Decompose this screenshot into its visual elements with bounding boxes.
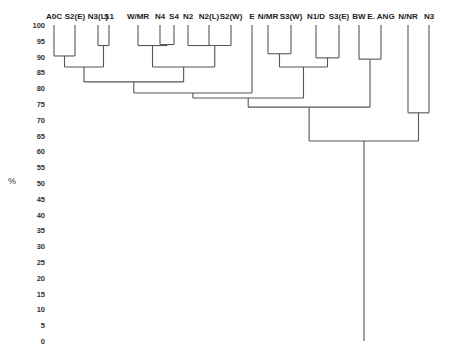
- y-tick-label: 10: [37, 305, 45, 314]
- y-tick-label: 40: [37, 211, 45, 220]
- leaf-labels: A0CS2(E)N3(L)S1W/MRN4S4N2N2(L)S2(W)EN/MR…: [46, 12, 435, 21]
- y-tick-label: 25: [37, 258, 45, 267]
- y-tick-label: 85: [37, 68, 45, 77]
- leaf-label: S2(W): [220, 12, 243, 21]
- y-tick-label: 30: [37, 242, 45, 251]
- y-tick-label: 100: [32, 21, 45, 30]
- y-tick-label: 95: [37, 37, 45, 46]
- y-tick-label: 15: [37, 290, 45, 299]
- leaf-label: N/NR: [398, 12, 418, 21]
- y-axis-label: %: [8, 176, 16, 186]
- y-tick-label: 50: [37, 179, 45, 188]
- y-tick-label: 55: [37, 163, 45, 172]
- dendrogram-branches: [54, 25, 429, 341]
- y-tick-label: 65: [37, 132, 45, 141]
- leaf-label: W/MR: [127, 12, 149, 21]
- leaf-label: N1/D: [307, 12, 325, 21]
- leaf-label: S2(E): [65, 12, 86, 21]
- leaf-label: N/MR: [258, 12, 279, 21]
- dendrogram-chart: 1009590858075706560555045403530252015105…: [0, 0, 452, 363]
- leaf-label: N2(L): [199, 12, 220, 21]
- leaf-label: BW: [352, 12, 366, 21]
- y-tick-label: 80: [37, 84, 45, 93]
- leaf-label: E: [249, 12, 255, 21]
- y-axis: 1009590858075706560555045403530252015105…: [32, 21, 45, 346]
- leaf-label: N4: [155, 12, 166, 21]
- leaf-label: S4: [169, 12, 179, 21]
- leaf-label: S3(E): [329, 12, 350, 21]
- y-tick-label: 70: [37, 116, 45, 125]
- y-tick-label: 20: [37, 274, 45, 283]
- y-tick-label: 0: [41, 337, 45, 346]
- leaf-label: N2: [183, 12, 194, 21]
- y-tick-label: 5: [41, 321, 45, 330]
- leaf-label: N3: [424, 12, 435, 21]
- y-tick-label: 60: [37, 147, 45, 156]
- y-tick-label: 45: [37, 195, 45, 204]
- y-tick-label: 90: [37, 53, 45, 62]
- leaf-label: A0C: [46, 12, 62, 21]
- y-tick-label: 35: [37, 226, 45, 235]
- leaf-label: S1: [104, 12, 114, 21]
- leaf-label: E. ANG: [367, 12, 394, 21]
- leaf-label: S3(W): [280, 12, 303, 21]
- y-tick-label: 75: [37, 100, 45, 109]
